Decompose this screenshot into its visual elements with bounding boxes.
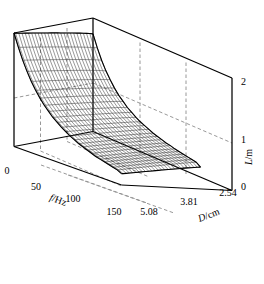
tick-label-f-50: 50 [31, 181, 41, 192]
axis-title-z: L/m [243, 149, 254, 166]
tick-label-f-0: 0 [5, 165, 10, 176]
axis-edge-top-back-left [14, 18, 93, 33]
tick-label-l-1: 1 [241, 134, 246, 145]
axis-title-z-unit: /m [243, 149, 254, 160]
surface-wireframe-mesh [14, 33, 201, 174]
mesh-line-constant-d [93, 34, 201, 167]
axis-title-y-unit: /cm [203, 206, 221, 222]
surface-boundary-outline [14, 33, 201, 174]
axis-edge-top-back-right [93, 18, 232, 78]
axis-edge-floor-D [122, 185, 233, 191]
mesh-line-constant-f [23, 60, 102, 61]
axis-title-y: D/cm [195, 206, 221, 225]
mesh-line-constant-f [27, 70, 106, 71]
surface-edge-d-min [93, 34, 201, 167]
axis-edge-floor-f [14, 147, 122, 186]
tick-label-l-2: 2 [241, 76, 246, 87]
tick-label-d-381: 3.81 [180, 196, 198, 207]
mesh-line-constant-f [31, 80, 110, 82]
mesh-line-constant-f [91, 146, 170, 154]
axis-box-frame [14, 18, 232, 191]
tick-label-l-0: 0 [241, 181, 246, 192]
mesh-line-constant-f [18, 47, 97, 48]
surface-plot-figure: 0 50 100 150 5.08 3.81 2.54 0 1 2 f/Hz D… [0, 0, 264, 284]
tick-label-f-150: 150 [107, 206, 122, 217]
surface-edge-f-min [14, 33, 93, 34]
tick-label-d-508: 5.08 [140, 206, 158, 217]
tick-label-d-254: 2.54 [219, 187, 237, 198]
plot-canvas: 0 50 100 150 5.08 3.81 2.54 0 1 2 f/Hz D… [0, 0, 264, 284]
